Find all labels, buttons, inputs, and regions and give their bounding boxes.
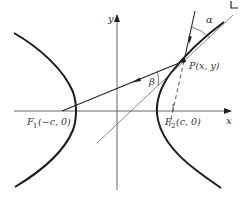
y-axis-label: y xyxy=(107,13,114,24)
reflected-ray-arrow xyxy=(131,78,141,83)
focus-2-label: F 2 (c, 0) xyxy=(164,116,201,130)
x-axis-label: x xyxy=(226,115,232,126)
corner-mark xyxy=(231,1,238,8)
incoming-ray xyxy=(184,11,195,61)
point-p xyxy=(182,59,186,63)
angle-beta-arc xyxy=(157,72,159,86)
focus-1-label: F 1 (−c, 0) xyxy=(26,116,71,130)
point-p-label: P(x, y) xyxy=(188,60,220,71)
hyperbola-right-branch xyxy=(157,22,224,188)
incoming-ray-arrow xyxy=(189,36,192,44)
angle-beta-label: β xyxy=(148,76,155,87)
svg-text:(c, 0): (c, 0) xyxy=(176,116,201,127)
hyperbola-diagram: y x P(x, y) α β F 1 (−c, 0) F 2 (c, 0) xyxy=(0,0,247,202)
svg-text:(−c, 0): (−c, 0) xyxy=(38,116,71,127)
hyperbola-left-branch xyxy=(14,33,76,187)
svg-text:1: 1 xyxy=(33,122,37,130)
svg-text:2: 2 xyxy=(171,122,175,130)
angle-alpha-label: α xyxy=(206,14,213,25)
reflected-ray xyxy=(62,61,184,111)
